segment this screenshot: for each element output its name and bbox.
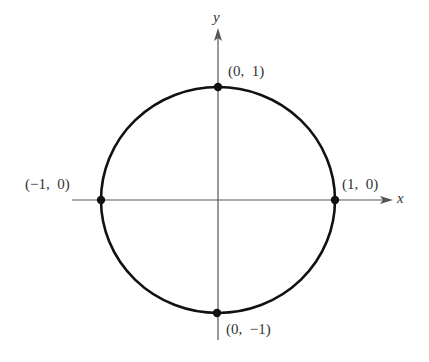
point-label-left: (−1, 0) [25,177,70,192]
point-right [331,196,339,204]
y-axis [214,28,222,340]
point-top [214,83,222,91]
y-axis-label: y [213,10,220,25]
x-axis [72,196,393,204]
point-bottom [213,309,221,317]
x-axis-label: x [397,191,404,206]
point-label-right: (1, 0) [342,177,378,192]
point-label-top: (0, 1) [228,64,264,79]
point-label-bottom: (0, −1) [226,322,271,337]
point-left [97,196,105,204]
